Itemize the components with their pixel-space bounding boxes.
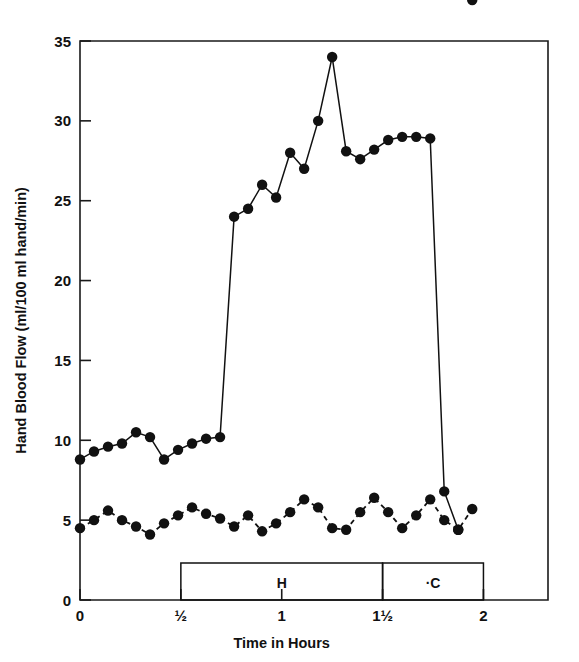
solid-line-series-point-23	[397, 132, 407, 142]
treatment-bar-heating-label: H	[277, 575, 287, 591]
solid-line-series-point-21	[369, 144, 379, 154]
dashed-line-series-point-25	[425, 494, 435, 504]
solid-line-series-point-3	[117, 438, 127, 448]
solid-line-series-point-13	[257, 180, 267, 190]
y-tick-label-35: 35	[54, 33, 71, 50]
dashed-line-series-point-10	[215, 513, 225, 523]
dashed-line-series-point-12	[243, 510, 253, 520]
x-tick-label-3: 1½	[372, 607, 393, 624]
solid-line-series-point-7	[173, 445, 183, 455]
chart-canvas: 05101520253035 0½11½2 H·C Time in HoursH…	[0, 0, 579, 662]
y-tick-label-20: 20	[54, 272, 71, 289]
x-tick-label-2: 1	[278, 607, 286, 624]
dashed-line-series-point-15	[285, 507, 295, 517]
x-tick-label-1: ½	[175, 607, 188, 624]
treatment-bar-cooling-label: ·C	[426, 575, 441, 591]
dashed-line-series-point-0	[75, 523, 85, 533]
dashed-line-series-point-19	[341, 525, 351, 535]
dashed-line-series-point-1	[89, 515, 99, 525]
y-tick-label-25: 25	[54, 192, 71, 209]
solid-line-series-point-22	[383, 135, 393, 145]
solid-line-series-point-17	[313, 116, 323, 126]
dashed-line-series-point-4	[131, 521, 141, 531]
solid-line-series-point-19	[341, 146, 351, 156]
dashed-line-series-point-26	[439, 515, 449, 525]
y-axis: 05101520253035	[54, 33, 91, 609]
solid-line-series-point-4	[131, 427, 141, 437]
solid-line-series-point-11	[229, 211, 239, 221]
solid-line-series-point-26	[439, 486, 449, 496]
solid-line-series-point-25	[425, 133, 435, 143]
y-tick-label-10: 10	[54, 432, 71, 449]
dashed-line-series-point-14	[271, 518, 281, 528]
y-tick-label-0: 0	[63, 592, 71, 609]
dashed-line-series-point-20	[355, 507, 365, 517]
data-series-group	[75, 0, 478, 540]
x-axis: 0½11½2	[76, 589, 488, 624]
y-axis-title: Hand Blood Flow (ml/100 ml hand/min)	[13, 187, 29, 454]
solid-line-series-point-10	[215, 432, 225, 442]
dashed-line-series-point-9	[201, 509, 211, 519]
dashed-line-series-point-22	[383, 507, 393, 517]
solid-line-series-point-0	[75, 454, 85, 464]
plot-border	[80, 41, 548, 600]
dashed-line-series-point-27	[453, 525, 463, 535]
solid-line-series-point-1	[89, 446, 99, 456]
y-tick-label-5: 5	[63, 512, 71, 529]
dashed-line-series-point-21	[369, 493, 379, 503]
dashed-line-series-point-6	[159, 518, 169, 528]
dashed-line-series-point-28	[467, 504, 477, 514]
chart-figure: 05101520253035 0½11½2 H·C Time in HoursH…	[0, 0, 579, 662]
solid-line-series-point-15	[285, 148, 295, 158]
x-tick-label-4: 2	[479, 607, 487, 624]
solid-line-series-point-9	[201, 433, 211, 443]
dashed-line-series-point-2	[103, 505, 113, 515]
solid-line-series-point-12	[243, 204, 253, 214]
solid-line-series-point-18	[327, 52, 337, 62]
dashed-line-series-point-17	[313, 502, 323, 512]
solid-line-series-point-24	[411, 132, 421, 142]
dashed-line-series-point-8	[187, 502, 197, 512]
plot-frame	[80, 41, 548, 600]
dashed-line-series-point-18	[327, 523, 337, 533]
solid-line-series-point-20	[355, 154, 365, 164]
solid-line-series-point-28	[467, 0, 477, 5]
dashed-line-series-point-16	[299, 494, 309, 504]
solid-line-series-point-5	[145, 432, 155, 442]
dashed-line-series-point-7	[173, 510, 183, 520]
solid-line-series-point-2	[103, 441, 113, 451]
solid-line-series-point-14	[271, 192, 281, 202]
y-tick-label-15: 15	[54, 352, 71, 369]
dashed-line-series-point-23	[397, 523, 407, 533]
x-tick-label-0: 0	[76, 607, 84, 624]
dashed-line-series-point-3	[117, 515, 127, 525]
solid-line-series-point-6	[159, 454, 169, 464]
annotation-group: H·C	[181, 563, 484, 600]
dashed-line-series-point-11	[229, 521, 239, 531]
dashed-line-series-point-13	[257, 526, 267, 536]
solid-line-series-path	[80, 57, 458, 530]
solid-line-series-point-16	[299, 164, 309, 174]
y-tick-label-30: 30	[54, 112, 71, 129]
dashed-line-series-point-24	[411, 510, 421, 520]
x-axis-title: Time in Hours	[234, 635, 330, 651]
dashed-line-series-point-5	[145, 529, 155, 539]
solid-line-series-point-8	[187, 438, 197, 448]
